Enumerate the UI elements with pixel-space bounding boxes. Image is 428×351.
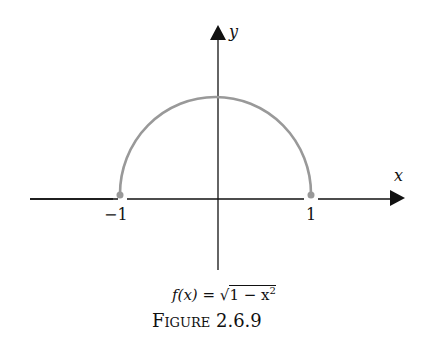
endpoint-dot-right [308,192,315,199]
y-axis-label: y [229,22,238,41]
radicand-text: 1 − x [229,286,269,304]
formula-exponent: 2 [270,285,276,296]
y-axis-arrow-icon [210,25,226,40]
formula-radicand: 1 − x2 [229,285,275,304]
x-axis-label: x [394,166,403,185]
function-formula: f(x) = √1 − x2 [172,285,276,304]
formula-lhs: f(x) = [172,286,220,304]
figure-caption: Figure 2.6.9 [152,310,262,331]
endpoint-dot-left [117,192,124,199]
x-axis-arrow-icon [390,190,405,206]
x-tick-label-neg1: −1 [104,205,128,224]
radical-icon: √ [220,286,230,304]
semicircle-curve [120,97,311,194]
x-tick-label-1: 1 [306,205,316,224]
